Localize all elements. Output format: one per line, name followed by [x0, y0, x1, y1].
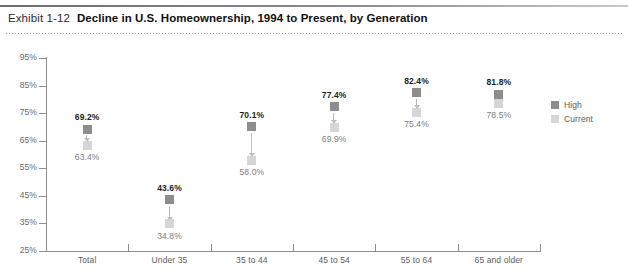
legend-swatch-icon	[551, 115, 559, 123]
legend-item-high[interactable]: High	[551, 98, 623, 112]
marker-current-under-35[interactable]	[165, 219, 174, 228]
x-axis-label-65-and-older: 65 and older	[475, 255, 523, 265]
value-label-high-under-35: 43.6%	[157, 183, 182, 193]
value-label-high-total: 69.2%	[75, 112, 100, 122]
x-axis-label-total: Total	[78, 255, 96, 265]
exhibit-title-bar: Exhibit 1-12 Decline in U.S. Homeownersh…	[8, 12, 620, 30]
y-axis-tick-mark	[39, 251, 46, 252]
marker-high-65-and-older[interactable]	[494, 90, 503, 99]
value-label-current-55-to-64: 75.4%	[404, 119, 429, 129]
exhibit-number: Exhibit 1-12	[8, 12, 70, 24]
y-axis-line	[46, 57, 47, 252]
chart-canvas: 95%85%75%65%55%45%35%25% TotalUnder 3535…	[0, 38, 628, 277]
x-axis-label-35-to-44: 35 to 44	[236, 255, 268, 265]
marker-current-65-and-older[interactable]	[494, 99, 503, 108]
value-label-current-35-to-44: 58.0%	[240, 167, 265, 177]
marker-high-45-to-54[interactable]	[330, 102, 339, 111]
value-label-high-35-to-44: 70.1%	[240, 110, 265, 120]
decline-connector-line	[251, 133, 252, 153]
y-axis-tick-mark	[39, 223, 46, 224]
x-axis-label-under-35: Under 35	[152, 255, 188, 265]
marker-current-45-to-54[interactable]	[330, 123, 339, 132]
x-axis-label-55-to-64: 55 to 64	[401, 255, 433, 265]
y-axis-tick-mark	[39, 141, 46, 142]
x-axis-tick-mark	[211, 244, 212, 252]
top-divider-rule	[0, 5, 628, 7]
value-label-high-65-and-older: 81.8%	[487, 77, 512, 87]
marker-current-55-to-64[interactable]	[412, 108, 421, 117]
x-axis-tick-mark	[540, 244, 541, 252]
value-label-current-65-and-older: 78.5%	[487, 110, 512, 120]
marker-current-total[interactable]	[83, 141, 92, 150]
x-axis-tick-mark	[375, 244, 376, 252]
y-axis-tick-mark	[39, 86, 46, 87]
legend-label: High	[564, 100, 582, 110]
legend-swatch-icon	[551, 101, 559, 109]
y-axis-tick-mark	[39, 58, 46, 59]
value-label-current-total: 63.4%	[75, 152, 100, 162]
decline-connector-line	[169, 206, 170, 217]
y-axis-tick-mark	[39, 196, 46, 197]
page-title: Decline in U.S. Homeownership, 1994 to P…	[77, 12, 428, 24]
chart-legend: HighCurrent	[551, 98, 623, 126]
x-axis-label-45-to-54: 45 to 54	[318, 255, 350, 265]
value-label-current-45-to-54: 69.9%	[322, 134, 347, 144]
value-label-current-under-35: 34.8%	[157, 231, 182, 241]
value-label-high-55-to-64: 82.4%	[404, 76, 429, 86]
title-dotted-divider	[6, 33, 624, 34]
marker-high-35-to-44[interactable]	[247, 122, 256, 131]
marker-current-35-to-44[interactable]	[247, 156, 256, 165]
marker-high-total[interactable]	[83, 125, 92, 134]
x-axis-tick-mark	[458, 244, 459, 252]
y-axis-tick-mark	[39, 168, 46, 169]
legend-item-current[interactable]: Current	[551, 112, 623, 126]
y-axis-tick-mark	[39, 113, 46, 114]
x-axis-tick-mark	[293, 244, 294, 252]
legend-label: Current	[564, 114, 593, 124]
value-label-high-45-to-54: 77.4%	[322, 90, 347, 100]
decline-connector-line	[333, 113, 334, 121]
marker-high-under-35[interactable]	[165, 195, 174, 204]
marker-high-55-to-64[interactable]	[412, 88, 421, 97]
x-axis-tick-mark	[128, 244, 129, 252]
